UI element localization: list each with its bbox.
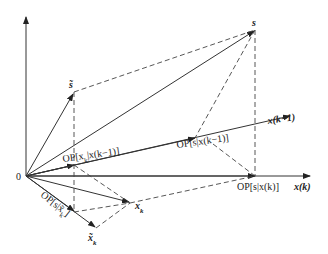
vector-s-tilde bbox=[26, 94, 73, 176]
label-origin: 0 bbox=[16, 171, 21, 182]
dash-opsxkt-xk bbox=[74, 203, 130, 212]
label-op-s-xktilde: OP[s|x̃k] bbox=[36, 189, 72, 222]
label-x-k-minus-1: x(k−1) bbox=[266, 111, 296, 127]
dash-opxk1-opxk bbox=[213, 144, 255, 176]
label-x-k-tilde: x̃k bbox=[87, 232, 97, 247]
label-op-s-xk: OP[s|x(k)] bbox=[237, 181, 279, 193]
vector-s bbox=[26, 31, 254, 176]
label-xk-axis: x(k) bbox=[293, 181, 311, 193]
label-s-tilde: s̃ bbox=[68, 79, 74, 90]
label-op-xk-xk1: OP[xk|x(k−1)] bbox=[62, 145, 121, 168]
label-s: s bbox=[251, 17, 256, 28]
projection-diagram: 0 s s̃ x(k−1) x(k) OP[s|x(k−1)] OP[s|x(k… bbox=[0, 0, 328, 254]
label-x-k: xk bbox=[134, 200, 144, 215]
dash-opxkxk1-xk bbox=[74, 165, 130, 203]
label-op-s-xk1: OP[s|x(k−1)] bbox=[176, 132, 230, 151]
dash-s-opxk1 bbox=[195, 30, 255, 138]
dash-xkt-xk bbox=[96, 203, 130, 228]
dash-stilde-s bbox=[74, 30, 255, 92]
